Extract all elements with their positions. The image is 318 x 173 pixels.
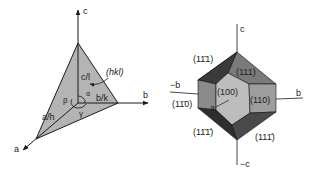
face-label-1m1m1: (11̄1̄): [193, 127, 213, 137]
face-label-1m10: (11̄0): [172, 99, 192, 109]
crystal-habit-diagram: c −c −b b a (11̄1) (111) (100) (110) (11…: [170, 24, 303, 169]
a-axis-label: a: [14, 144, 19, 154]
neg-c-label: −c: [240, 159, 250, 169]
diagram-canvas: c b a c/l b/k a/h (hkl) α β γ c −c −b b …: [0, 0, 318, 173]
c-axis-label: c: [83, 6, 88, 16]
alpha-label: α: [86, 90, 90, 97]
a-label: a: [210, 103, 215, 113]
b-axis-line: [276, 98, 303, 99]
hkl-plane: [36, 43, 118, 139]
face-label-111: (111): [236, 67, 256, 77]
c-label: c: [240, 24, 245, 34]
gamma-label: γ: [79, 109, 83, 118]
c-intercept-label: c/l: [81, 72, 90, 82]
unit-cell-diagram: c b a c/l b/k a/h (hkl) α β γ: [14, 6, 148, 154]
face-label-11m1: (111̄): [255, 132, 275, 142]
a-intercept-label: a/h: [42, 112, 55, 122]
beta-label: β: [63, 96, 68, 105]
face-label-110: (110): [250, 95, 270, 105]
hkl-plane-label: (hkl): [106, 67, 124, 77]
b-axis-label: b: [143, 90, 148, 100]
face-label-1m11: (11̄1): [193, 54, 213, 64]
face-label-100: (100): [217, 87, 238, 97]
b-label: b: [296, 88, 301, 98]
neg-b-axis-line: [170, 92, 198, 94]
neg-b-label: −b: [170, 80, 180, 90]
b-intercept-label: b/k: [96, 93, 109, 103]
